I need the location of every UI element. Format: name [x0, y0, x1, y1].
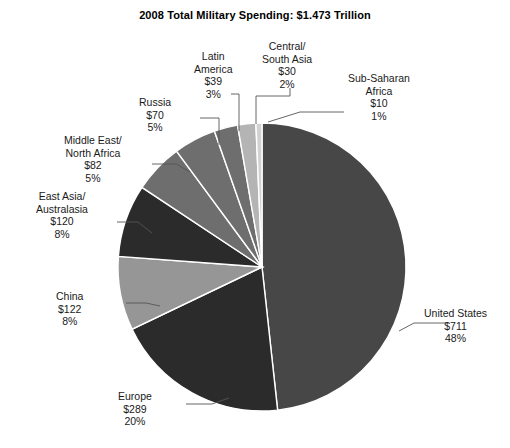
slice-label-percent: 8% [56, 315, 83, 328]
slice-label-name: Russia [139, 96, 171, 109]
slice-label-central-asia: Central/ South Asia $30 2% [262, 40, 312, 90]
slice-label-value: $10 [348, 97, 410, 110]
slice-label-name: Middle East/ [64, 134, 122, 147]
slice-label-name: Latin [194, 50, 233, 63]
slice-label-name: Central/ [262, 40, 312, 53]
slice-label-percent: 5% [64, 172, 122, 185]
slice-label-percent: 20% [118, 415, 152, 428]
slice-label-name: Europe [118, 390, 152, 403]
slice-label-middle-east: Middle East/ North Africa $82 5% [64, 134, 122, 184]
slice-label-name: China [56, 290, 83, 303]
slice-label-name: Sub-Saharan [348, 72, 410, 85]
slice-label-subsaharan-africa: Sub-Saharan Africa $10 1% [348, 72, 410, 122]
slice-label-name: East Asia/ [36, 190, 88, 203]
slice-label-east-asia: East Asia/ Australasia $120 8% [36, 190, 88, 240]
leader-line-central-asia [256, 88, 290, 124]
slice-label-value: $289 [118, 403, 152, 416]
slice-label-value: $70 [139, 109, 171, 122]
slice-label-name: United States [424, 307, 487, 320]
slice-label-russia: Russia $70 5% [139, 96, 171, 134]
slice-label-value: $30 [262, 65, 312, 78]
slice-label-latin-america: Latin America $39 3% [194, 50, 233, 100]
leader-line-subsaharan [268, 112, 344, 122]
slice-label-value: $39 [194, 75, 233, 88]
pie-chart-figure: 2008 Total Military Spending: $1.473 Tri… [0, 0, 510, 448]
slice-label-percent: 1% [348, 110, 410, 123]
slice-label-percent: 3% [194, 88, 233, 101]
slice-label-percent: 8% [36, 228, 88, 241]
slice-label-value: $82 [64, 159, 122, 172]
slice-label-united-states: United States $711 48% [424, 307, 487, 345]
pie-slice-group [118, 123, 406, 411]
pie-slice-united-states[interactable] [262, 123, 406, 410]
slice-label-percent: 5% [139, 121, 171, 134]
slice-label-percent: 48% [424, 332, 487, 345]
slice-label-value: $711 [424, 320, 487, 333]
slice-label-china: China $122 8% [56, 290, 83, 328]
slice-label-name-2: North Africa [64, 147, 122, 160]
slice-label-name-2: South Asia [262, 53, 312, 66]
slice-label-percent: 2% [262, 78, 312, 91]
slice-label-europe: Europe $289 20% [118, 390, 152, 428]
slice-label-value: $120 [36, 215, 88, 228]
slice-label-name-2: America [194, 63, 233, 76]
slice-label-name-2: Australasia [36, 203, 88, 216]
slice-label-name-2: Africa [348, 85, 410, 98]
slice-label-value: $122 [56, 303, 83, 316]
